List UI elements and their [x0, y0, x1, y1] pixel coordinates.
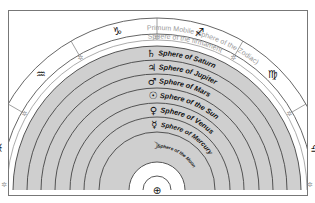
star-icon: ✲	[287, 110, 293, 118]
star-icon: ✲	[22, 110, 28, 118]
sagittarius-icon: ♐	[195, 26, 205, 39]
cosmos-diagram: ⊕ Primum Mobile (sphere of the Zodiac) S…	[0, 0, 315, 203]
jupiter-icon: ♃	[147, 62, 156, 73]
venus-icon: ♀	[150, 105, 157, 116]
pisces-icon: ♓	[0, 142, 4, 155]
earth-icon: ⊕	[153, 185, 161, 196]
mars-icon: ♂	[148, 76, 157, 87]
star-icon: ✲	[1, 181, 7, 189]
star-icon: ✲	[78, 54, 84, 62]
mercury-icon: ☿	[151, 119, 157, 130]
saturn-icon: ♄	[147, 48, 156, 59]
libra-icon: ♎	[310, 142, 315, 155]
star-icon: ✲	[154, 34, 160, 42]
aquarius-icon: ♒	[36, 68, 46, 81]
star-icon: ✲	[307, 181, 313, 189]
capricorn-icon: ♑	[112, 25, 122, 38]
virgo-icon: ♍	[268, 68, 278, 81]
star-icon: ✲	[231, 54, 237, 62]
sun-icon: ☉	[148, 90, 157, 101]
